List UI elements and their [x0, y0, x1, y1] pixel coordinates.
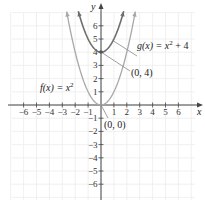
x-axis-label: x [196, 106, 202, 117]
y-axis-arrow-icon [99, 3, 104, 9]
x-tick-label: −5 [32, 107, 42, 117]
y-tick-label: 6 [93, 21, 98, 31]
y-tick-label: −4 [88, 153, 98, 163]
y-axis-label: y [90, 1, 96, 12]
y-tick-label: 5 [93, 34, 98, 44]
leader-g [112, 40, 137, 56]
x-tick-label: −2 [70, 107, 80, 117]
x-tick-label: −6 [19, 107, 29, 117]
x-tick-label: 2 [125, 107, 130, 117]
x-tick-label: 3 [137, 107, 142, 117]
y-tick-label: 3 [93, 60, 98, 70]
axes [8, 3, 203, 200]
y-tick-label: −2 [88, 126, 98, 136]
point-0-0-label: (0, 0) [104, 119, 126, 131]
point-0-4-marker [99, 50, 103, 54]
x-tick-label: −3 [58, 107, 68, 117]
x-tick-label: 5 [163, 107, 168, 117]
point-0-4-label: (0, 4) [131, 67, 153, 79]
g-label: g(x) = x2 + 4 [137, 39, 188, 52]
coordinate-plane: −6−5−4−3−2−1123456−6−5−4−3−2−1123456 y x… [0, 0, 205, 200]
y-tick-label: −6 [88, 179, 98, 189]
x-tick-label: −4 [45, 107, 55, 117]
x-tick-label: 1 [112, 107, 117, 117]
y-tick-label: −1 [88, 113, 98, 123]
f-label: f(x) = x2 [40, 81, 74, 94]
y-tick-label: 2 [93, 74, 98, 84]
leader-00 [101, 105, 108, 118]
y-tick-label: −3 [88, 140, 98, 150]
y-tick-label: 1 [93, 87, 98, 97]
x-tick-label: 6 [176, 107, 181, 117]
y-tick-label: −5 [88, 166, 98, 176]
x-tick-label: 4 [150, 107, 155, 117]
